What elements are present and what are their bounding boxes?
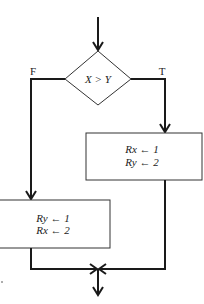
true-process-box: Rx ← 1 Ry ← 2 (86, 133, 202, 180)
exit-arrow (93, 269, 103, 295)
entry-arrow (93, 17, 103, 50)
false-box-line2: Rx ← 2 (35, 224, 70, 236)
true-label: T (159, 65, 166, 77)
flowchart-diagram: X > Y F T Rx ← 1 Ry ← 2 Ry ← 1 Rx ← 2 (0, 0, 204, 304)
decision-label: X > Y (84, 73, 113, 85)
false-box-line1: Ry ← 1 (35, 212, 69, 224)
stray-dot (1, 281, 3, 283)
false-branch: F (26, 65, 65, 199)
true-branch: T (131, 65, 170, 132)
false-process-box: Ry ← 1 Rx ← 2 (0, 200, 110, 248)
false-label: F (30, 65, 36, 77)
true-box-line2: Ry ← 2 (124, 156, 159, 168)
true-box-line1: Rx ← 1 (124, 143, 159, 155)
decision-diamond: X > Y (65, 51, 131, 105)
